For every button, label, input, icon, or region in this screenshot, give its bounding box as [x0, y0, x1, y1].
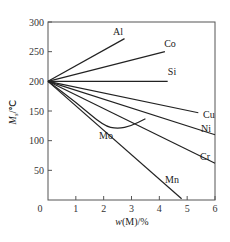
series-label-cr: Cr: [200, 151, 211, 162]
series-line-al: [48, 39, 125, 82]
x-tick-label: 2: [101, 203, 106, 214]
series-line-co: [48, 52, 165, 82]
series-lines: [48, 39, 215, 199]
series-label-cu: Cu: [203, 109, 215, 120]
x-tick-label: 6: [213, 203, 218, 214]
x-tick-label: 5: [185, 203, 190, 214]
y-tick-label: 100: [29, 135, 44, 146]
x-axis-label-rest: (M)/%: [122, 216, 149, 228]
series-line-cr: [48, 81, 215, 163]
series-line-cu: [48, 81, 198, 112]
x-tick-label: 3: [129, 203, 134, 214]
y-tick-label: 250: [29, 46, 44, 57]
y-tick-label: 200: [29, 76, 44, 87]
origin-label: 0: [38, 203, 43, 214]
series-labels: AlCoSiCuNiCrMoMn: [99, 26, 215, 185]
y-tick-label: 150: [29, 106, 44, 117]
series-label-ni: Ni: [201, 123, 211, 134]
y-tick-label: 300: [29, 17, 44, 28]
x-axis-label: w(M)/%: [115, 216, 148, 228]
y-axis-label: Ms/℃: [7, 100, 20, 126]
series-label-mo: Mo: [99, 130, 113, 141]
series-label-al: Al: [113, 26, 123, 37]
series-label-co: Co: [164, 38, 176, 49]
series-label-mn: Mn: [165, 174, 179, 185]
y-tick-label: 50: [34, 165, 44, 176]
series-label-si: Si: [168, 66, 177, 77]
x-ticks: 123456: [73, 196, 217, 214]
series-line-ni: [48, 81, 215, 134]
y-ticks: 50100150200250300: [29, 17, 52, 176]
ms-alloying-chart: 50100150200250300 123456 AlCoSiCuNiCrMoM…: [0, 0, 230, 242]
series-line-mn: [48, 81, 182, 198]
x-tick-label: 4: [157, 203, 162, 214]
x-tick-label: 1: [73, 203, 78, 214]
